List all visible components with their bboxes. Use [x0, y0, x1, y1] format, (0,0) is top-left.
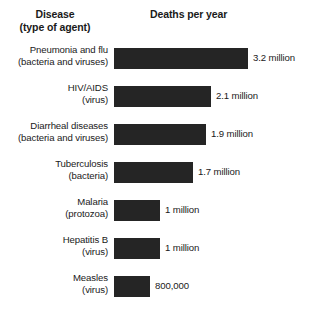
row-label-disease: Tuberculosis [0, 158, 108, 170]
row-label: Hepatitis B(virus) [0, 234, 108, 257]
row-label-disease: Hepatitis B [0, 234, 108, 246]
row-label-agent: (virus) [0, 246, 108, 258]
chart-row: Tuberculosis(bacteria)1.7 million [0, 162, 326, 186]
row-label-agent: (bacteria) [0, 170, 108, 182]
bar [114, 48, 248, 69]
row-label-disease: Pneumonia and flu [0, 44, 108, 56]
bar-value-label: 1 million [165, 242, 199, 254]
bar-value-label: 800,000 [155, 280, 189, 292]
bar [114, 238, 160, 259]
bar [114, 162, 193, 183]
chart-row: Hepatitis B(virus)1 million [0, 238, 326, 262]
column-header-disease-line1: Disease [0, 8, 110, 21]
bar-value-label: 1.9 million [211, 128, 253, 140]
row-label-agent: (protozoa) [0, 208, 108, 220]
bar-value-label: 3.2 million [253, 52, 295, 64]
chart-row: HIV/AIDS(virus)2.1 million [0, 86, 326, 110]
chart-row: Pneumonia and flu(bacteria and viruses)3… [0, 48, 326, 72]
chart-row: Measles(virus)800,000 [0, 276, 326, 300]
row-label-agent: (virus) [0, 94, 108, 106]
row-label: Pneumonia and flu(bacteria and viruses) [0, 44, 108, 67]
deaths-per-year-bar-chart: Disease (type of agent) Deaths per year … [0, 0, 326, 311]
row-label: Diarrheal diseases(bacteria and viruses) [0, 120, 108, 143]
column-header-deaths-per-year: Deaths per year [150, 8, 227, 21]
bar-value-label: 1.7 million [198, 166, 240, 178]
column-header-disease: Disease (type of agent) [0, 8, 110, 34]
bar [114, 124, 206, 145]
row-label-agent: (bacteria and viruses) [0, 132, 108, 144]
row-label-agent: (virus) [0, 284, 108, 296]
bar [114, 86, 211, 107]
chart-row: Diarrheal diseases(bacteria and viruses)… [0, 124, 326, 148]
row-label-disease: HIV/AIDS [0, 82, 108, 94]
row-label-agent: (bacteria and viruses) [0, 56, 108, 68]
bar-value-label: 1 million [165, 204, 199, 216]
row-label-disease: Diarrheal diseases [0, 120, 108, 132]
row-label: HIV/AIDS(virus) [0, 82, 108, 105]
row-label-disease: Measles [0, 272, 108, 284]
bar-value-label: 2.1 million [216, 90, 258, 102]
row-label: Tuberculosis(bacteria) [0, 158, 108, 181]
row-label: Measles(virus) [0, 272, 108, 295]
row-label: Malaria(protozoa) [0, 196, 108, 219]
column-header-disease-line2: (type of agent) [0, 21, 110, 34]
bar [114, 276, 150, 297]
chart-row: Malaria(protozoa)1 million [0, 200, 326, 224]
row-label-disease: Malaria [0, 196, 108, 208]
bar [114, 200, 160, 221]
